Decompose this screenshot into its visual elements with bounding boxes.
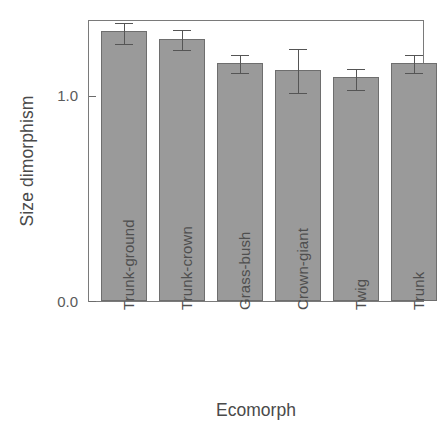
bar-chart-figure: Size dimorphism 1.0 0.0 (0, 0, 443, 439)
y-axis-title: Size dimorphism (14, 20, 40, 302)
error-bar-trunk-ground (115, 23, 133, 45)
x-tick-label-grass-bush: Grass-bush (234, 190, 254, 310)
y-tick-label-0-0: 0.0 (38, 293, 78, 310)
error-stem (182, 30, 183, 51)
error-bar-trunk-crown (173, 30, 191, 51)
x-tick-label-crown-giant: Crown-giant (292, 190, 312, 310)
error-cap-bottom (115, 44, 133, 45)
plot-area (88, 20, 424, 302)
x-tick-label-trunk-crown: Trunk-crown (176, 190, 196, 310)
error-bar-crown-giant (289, 49, 307, 94)
x-tick-label-trunk: Trunk (408, 190, 428, 310)
x-tick-label-trunk-ground: Trunk-ground (118, 190, 138, 310)
error-bar-trunk (405, 55, 423, 74)
bars-layer (89, 21, 423, 301)
error-stem (356, 69, 357, 91)
error-stem (298, 49, 299, 94)
error-bar-grass-bush (231, 55, 249, 74)
error-stem (240, 55, 241, 74)
error-cap-bottom (289, 93, 307, 94)
x-axis-title: Ecomorph (88, 400, 424, 421)
error-cap-bottom (405, 73, 423, 74)
error-cap-bottom (173, 50, 191, 51)
y-tick-label-1-0: 1.0 (38, 87, 78, 104)
x-tick-label-twig: Twig (350, 190, 370, 310)
error-cap-bottom (347, 90, 365, 91)
error-bar-twig (347, 69, 365, 91)
error-stem (414, 55, 415, 74)
error-cap-bottom (231, 73, 249, 74)
y-tick-mark-0-0 (89, 301, 96, 302)
error-stem (124, 23, 125, 45)
